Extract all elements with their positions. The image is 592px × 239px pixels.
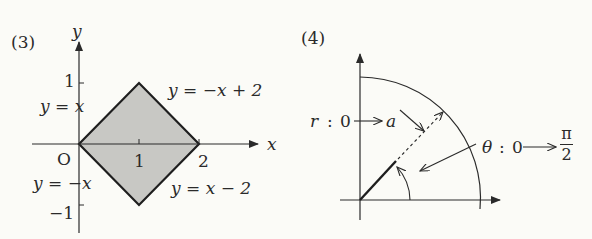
line-label-y-eq-x-minus-2: y = x − 2 (171, 180, 251, 197)
theta-to-numerator: π (561, 126, 572, 142)
quarter-circle-arc (360, 77, 481, 209)
tick-label-ym1: −1 (49, 205, 74, 222)
diagram-graphics (0, 0, 592, 239)
theta-colon: : (499, 139, 505, 156)
tick-label-x2: 2 (198, 153, 209, 170)
a-pointer-arrow (400, 110, 424, 131)
theta-to-denominator: 2 (561, 147, 571, 163)
panel-4-label: (4) (301, 30, 325, 47)
panel-4-graphics (340, 54, 556, 220)
r-to: a (386, 113, 396, 130)
diagram-canvas: (3) y x O 1 −1 1 2 y = x y = −x + 2 y = … (0, 0, 592, 239)
tick-label-x1: 1 (134, 153, 145, 170)
tick-label-y1: 1 (64, 73, 75, 90)
origin-label: O (57, 151, 71, 168)
y-axis-label: y (72, 23, 82, 40)
line-label-y-eq-x: y = x (40, 98, 84, 115)
theta-pointer-arrow (420, 144, 476, 171)
r-colon: : (327, 113, 333, 130)
line-label-y-eq-neg-x-plus-2: y = −x + 2 (168, 82, 262, 99)
theta-to-fraction: π 2 (560, 126, 573, 163)
radius-segment (360, 161, 396, 200)
radius-dashed-extension (398, 112, 443, 159)
panel-3-label: (3) (11, 34, 35, 51)
theta-variable: θ (482, 139, 492, 156)
theta-from: 0 (512, 139, 523, 156)
line-label-y-eq-neg-x: y = −x (33, 175, 92, 192)
angle-arc (397, 167, 410, 200)
r-variable: r (310, 113, 318, 130)
r-from: 0 (340, 113, 351, 130)
x-axis-label: x (267, 136, 277, 153)
